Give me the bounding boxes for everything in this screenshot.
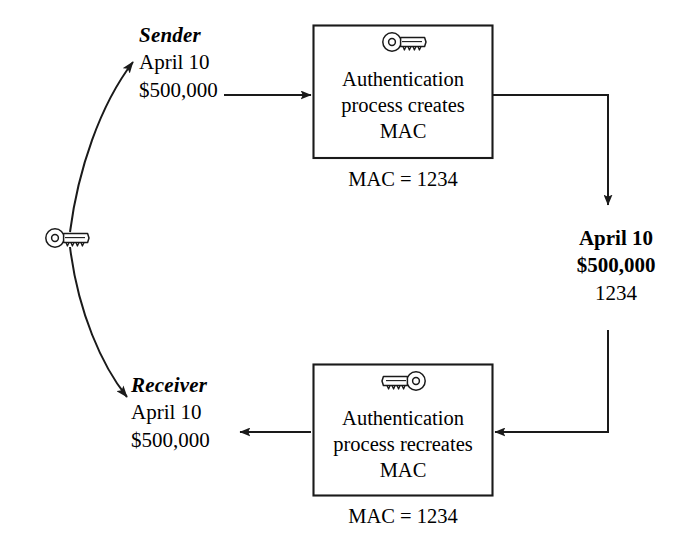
receiver-role-label: Receiver: [131, 372, 210, 399]
transit-mac: 1234: [556, 280, 676, 307]
receiver-amount: $500,000: [131, 427, 210, 454]
text-layer: Sender April 10 $500,000 Receiver April …: [0, 0, 679, 558]
sender-date: April 10: [139, 49, 218, 76]
auth-recreate-line2: process recreates: [313, 431, 493, 457]
sender-amount: $500,000: [139, 77, 218, 104]
auth-create-box-text: Authentication process creates MAC: [313, 66, 493, 145]
receiver-date: April 10: [131, 399, 210, 426]
auth-recreate-line3: MAC: [313, 457, 493, 483]
transit-date: April 10: [556, 225, 676, 252]
transit-amount: $500,000: [556, 252, 676, 279]
receiver-block: Receiver April 10 $500,000: [131, 372, 210, 454]
auth-recreate-caption: MAC = 1234: [313, 505, 493, 528]
transit-message-block: April 10 $500,000 1234: [556, 225, 676, 307]
auth-recreate-line1: Authentication: [313, 405, 493, 431]
sender-block: Sender April 10 $500,000: [139, 22, 218, 104]
auth-create-line3: MAC: [313, 118, 493, 144]
auth-create-caption: MAC = 1234: [313, 168, 493, 191]
sender-role-label: Sender: [139, 22, 218, 49]
auth-recreate-box-text: Authentication process recreates MAC: [313, 405, 493, 484]
auth-create-line2: process creates: [313, 92, 493, 118]
mac-flow-diagram: Sender April 10 $500,000 Receiver April …: [0, 0, 679, 558]
auth-create-line1: Authentication: [313, 66, 493, 92]
